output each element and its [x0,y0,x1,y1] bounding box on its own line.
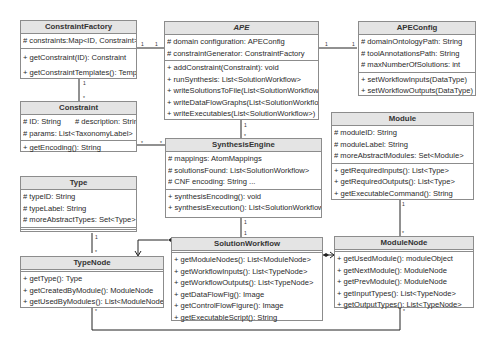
multiplicity: * [95,308,97,314]
class-type-node[interactable]: TypeNode + getType(): Type + getCreatedB… [20,256,164,308]
multiplicity: * [95,249,97,255]
method: + getInputTypes(): List<TypeNode> [337,288,473,300]
class-type[interactable]: Type # typeID: String # typeLabel: Strin… [20,176,137,232]
multiplicity: * [141,140,143,146]
attribute: # ID: String [23,117,61,126]
multiplicity: 1 [95,234,98,240]
method: + getEncoding(): String [23,142,136,154]
method: + getType(): Type [23,273,163,285]
class-solution-workflow[interactable]: SolutionWorkflow + getModuleNodes(): Lis… [171,237,323,321]
class-name: APE [165,22,318,35]
class-name: Constraint [21,102,136,115]
method: + getUsedByModules(): List<ModuleNode> [23,296,163,308]
class-name: SolutionWorkflow [172,238,322,251]
method: + getWorkflowOutputs(): List<TypeNode> [174,277,322,289]
method: + writeDataFlowGraphs(List<SolutionWorkf… [167,97,318,109]
multiplicity: 1 [325,41,328,47]
method: + writeExecutables(List<SolutionWorkflow… [167,108,318,120]
method: + getModuleNodes(): List<ModuleNode> [174,254,322,266]
multiplicity: 1 [402,201,405,207]
method: + writeSolutionsToFile(List<SolutionWork… [167,85,318,97]
method: + getConstraintTemplates(): Templ [23,67,136,79]
attribute: # moreAbstractTypes: Set<Type> [23,214,136,226]
multiplicity: 1 [244,230,247,236]
method: + getNextModule(): ModuleNode [337,265,473,277]
method: + getRequiredInputs(): List<Type> [334,165,473,177]
method: + synthesisEncoding(): void [168,191,321,203]
class-name: Type [21,177,136,190]
class-name: SynthesisEngine [166,139,321,152]
method: + addConstraint(Constraint): void [167,62,318,74]
attribute: # description: String [75,117,136,126]
multiplicity: * [160,140,162,146]
class-module-node[interactable]: ModuleNode + getUsedModule(): moduleObje… [334,236,474,308]
method: + getDataFlowFig(): Image [174,289,322,301]
class-synthesis-engine[interactable]: SynthesisEngine # mappings: AtomMappings… [165,138,322,218]
class-module[interactable]: Module # moduleID: String # moduleLabel:… [331,112,474,200]
attribute: # CNF encoding: String ... [168,176,321,188]
multiplicity: 1 [155,41,158,47]
attribute: # constraints:Map<ID, Constraint> [23,35,136,47]
class-name: TypeNode [21,257,163,270]
attribute: # toolAnnotationsPath: String [361,48,475,60]
class-name: Module [332,113,473,126]
method: + synthesisExecution(): List<SolutionWor… [168,202,321,214]
attribute: # constraintGenerator: ConstraintFactory [167,48,318,60]
class-name: ModuleNode [335,237,473,250]
class-name: ConstraintFactory [21,21,136,34]
class-constraint-factory[interactable]: ConstraintFactory # constraints:Map<ID, … [20,20,137,79]
method: + getCreatedByModule(): ModuleNode [23,285,163,297]
multiplicity: 1 [83,80,86,86]
method: + runSynthesis: List<SolutionWorkflow> [167,74,318,86]
attribute: # domainOntologyPath: String [361,36,475,48]
method: + getConstraint(ID): Constraint [23,52,136,67]
method: + getUsedModule(): moduleObject [337,253,473,265]
attribute: # params: List<TaxonomyLabel> [23,128,136,140]
method: + setWorkflowOutputs(DataType) [361,85,475,97]
method: + setWorkflowInputs(DataType) [361,74,475,86]
attribute: # typeID: String [23,191,136,203]
multiplicity: 1 [244,122,247,128]
attribute: # domain configuration: APEConfig [167,36,318,48]
class-constraint[interactable]: Constraint # ID: String# description: St… [20,101,137,152]
attribute: # maxNumberOfSolutions: int [361,59,475,71]
attribute: # moduleLabel: String [334,139,473,151]
attribute: # moreAbstractModules: Set<Module> [334,150,473,162]
method: + getOutputTypes(): List<TypeNode> [337,299,473,311]
class-ape-config[interactable]: APEConfig # domainOntologyPath: String #… [358,21,476,96]
class-ape[interactable]: APE # domain configuration: APEConfig # … [164,21,319,120]
multiplicity: 1 [141,41,144,47]
multiplicity: 1 [244,219,247,225]
method: + getControlFlowFigure(): Image [174,300,322,312]
attribute: # typeLabel: String [23,203,136,215]
attribute: # mappings: AtomMappings [168,153,321,165]
method: + getPrevModule(): ModuleNode [337,276,473,288]
multiplicity: 1 [352,41,355,47]
method: + getExecutableScript(): String [174,312,322,324]
attribute: # solutionsFound: List<SolutionWorkflow> [168,165,321,177]
composition-diamond-icon [323,253,329,257]
method: + getExecutableCommand(): String [334,188,473,200]
attribute: # moduleID: String [334,127,473,139]
method: + getRequiredOutputs(): List<Type> [334,176,473,188]
method: + getWorkflowInputs(): List<TypeNode> [174,266,322,278]
attribute: # ID: String# description: String [23,116,136,128]
class-name: APEConfig [359,22,475,35]
